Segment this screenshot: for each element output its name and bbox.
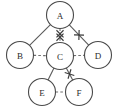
node-label-d: D — [95, 51, 102, 61]
node-label-a: A — [57, 11, 64, 21]
node-d[interactable]: D — [85, 42, 112, 69]
node-label-b: B — [17, 51, 23, 61]
nodes-layer: ABCDEF — [7, 2, 112, 106]
node-e[interactable]: E — [29, 79, 56, 106]
edge-c-e — [48, 68, 54, 80]
edge-mark-c-f — [65, 69, 75, 79]
node-b[interactable]: B — [7, 42, 34, 69]
edge-a-b — [30, 25, 51, 46]
node-label-f: F — [76, 88, 81, 98]
diagram-canvas: ABCDEF — [0, 0, 118, 107]
node-f[interactable]: F — [66, 79, 93, 106]
node-label-c: C — [57, 52, 63, 62]
node-a[interactable]: A — [47, 2, 74, 29]
node-label-e: E — [39, 88, 45, 98]
graph-svg: ABCDEF — [0, 0, 118, 107]
node-c[interactable]: C — [47, 43, 74, 70]
